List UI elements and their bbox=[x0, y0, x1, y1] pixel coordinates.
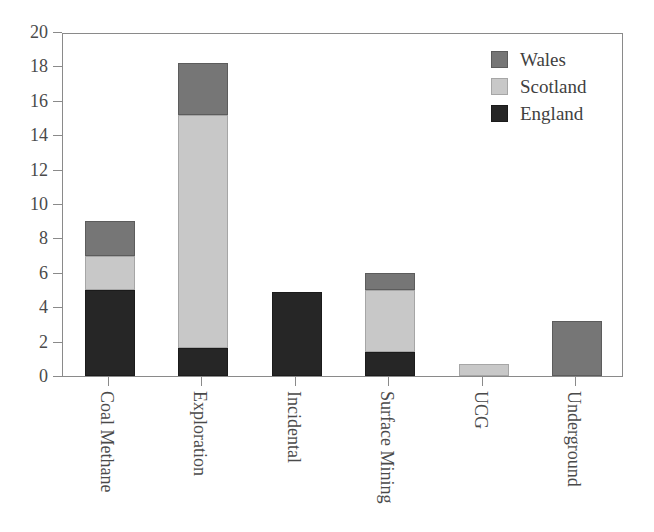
y-tick-mark bbox=[53, 32, 62, 33]
y-tick-mark bbox=[53, 204, 62, 205]
x-tick-label: UCG bbox=[472, 391, 490, 429]
y-tick-label: 8 bbox=[39, 227, 48, 249]
y-tick-label: 16 bbox=[30, 90, 48, 112]
x-tick-mark bbox=[108, 377, 109, 386]
bar-segment-wales bbox=[552, 321, 602, 376]
y-tick-label: 20 bbox=[30, 21, 48, 43]
bar-segment-wales bbox=[365, 273, 415, 290]
bar-segment-england bbox=[365, 352, 415, 376]
bar-segment-scotland bbox=[459, 364, 509, 376]
legend-swatch-icon bbox=[491, 51, 508, 68]
x-tick-label: Exploration bbox=[191, 391, 209, 476]
legend: WalesScotlandEngland bbox=[487, 44, 593, 131]
x-tick-label: Surface Mining bbox=[378, 391, 396, 503]
y-tick-mark bbox=[53, 273, 62, 274]
y-tick-label: 14 bbox=[30, 124, 48, 146]
legend-item-england: England bbox=[491, 100, 587, 127]
x-tick-mark bbox=[388, 377, 389, 386]
x-tick-mark bbox=[575, 377, 576, 386]
bar-segment-england bbox=[85, 290, 135, 376]
y-tick-mark bbox=[53, 66, 62, 67]
bar-group bbox=[365, 32, 415, 376]
y-tick-mark bbox=[53, 342, 62, 343]
legend-swatch-icon bbox=[491, 105, 508, 122]
bar-group bbox=[272, 32, 322, 376]
x-axis: Coal MethaneExplorationIncidentalSurface… bbox=[0, 377, 654, 532]
bar-segment-england bbox=[272, 292, 322, 376]
y-tick-label: 18 bbox=[30, 55, 48, 77]
y-tick-mark bbox=[53, 170, 62, 171]
bar-group bbox=[178, 32, 228, 376]
bar-segment-wales bbox=[85, 221, 135, 255]
y-tick-label: 2 bbox=[39, 331, 48, 353]
y-tick-label: 10 bbox=[30, 193, 48, 215]
y-tick-mark bbox=[53, 135, 62, 136]
y-tick-mark bbox=[53, 101, 62, 102]
legend-label: Scotland bbox=[520, 77, 587, 96]
legend-swatch-icon bbox=[491, 78, 508, 95]
stacked-bar-chart: 02468101214161820 Coal MethaneExploratio… bbox=[0, 0, 654, 532]
x-tick-label: Coal Methane bbox=[98, 391, 116, 492]
x-tick-mark bbox=[295, 377, 296, 386]
y-tick-label: 6 bbox=[39, 262, 48, 284]
y-tick-mark bbox=[53, 238, 62, 239]
bar-segment-scotland bbox=[365, 290, 415, 352]
y-tick-label: 4 bbox=[39, 296, 48, 318]
bar-segment-scotland bbox=[85, 256, 135, 290]
legend-label: Wales bbox=[520, 50, 566, 69]
bar-group bbox=[85, 32, 135, 376]
y-tick-label: 12 bbox=[30, 159, 48, 181]
legend-item-scotland: Scotland bbox=[491, 73, 587, 100]
bar-segment-wales bbox=[178, 63, 228, 115]
x-tick-label: Underground bbox=[565, 391, 583, 487]
x-tick-mark bbox=[482, 377, 483, 386]
legend-item-wales: Wales bbox=[491, 46, 587, 73]
bar-segment-england bbox=[178, 348, 228, 376]
legend-label: England bbox=[520, 104, 583, 123]
y-tick-mark bbox=[53, 307, 62, 308]
bar-segment-scotland bbox=[178, 115, 228, 349]
x-tick-label: Incidental bbox=[285, 391, 303, 463]
x-tick-mark bbox=[201, 377, 202, 386]
